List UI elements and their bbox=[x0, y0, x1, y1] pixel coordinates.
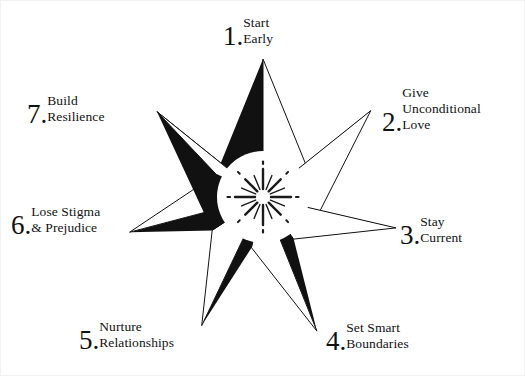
callout-6-text: Lose Stigma & Prejudice bbox=[31, 204, 100, 236]
callout-4[interactable]: 4. Set Smart Boundaries bbox=[326, 320, 409, 352]
callout-1-text: Start Early bbox=[243, 15, 273, 47]
callout-4-text: Set Smart Boundaries bbox=[346, 320, 409, 352]
callout-7-text: Build Resilience bbox=[47, 93, 104, 125]
callout-2-number: 2. bbox=[382, 109, 402, 136]
callout-2[interactable]: 2. Give Unconditional Love bbox=[382, 85, 481, 133]
callout-1-number: 1. bbox=[223, 23, 243, 50]
callout-3-text: Stay Current bbox=[420, 214, 462, 246]
callout-6[interactable]: 6. Lose Stigma & Prejudice bbox=[11, 204, 100, 236]
star-rays bbox=[130, 59, 396, 331]
callout-5[interactable]: 5. Nurture Relationships bbox=[79, 319, 174, 351]
callout-5-number: 5. bbox=[79, 327, 99, 354]
callout-6-number: 6. bbox=[11, 212, 31, 239]
callout-3[interactable]: 3. Stay Current bbox=[400, 214, 462, 246]
callout-7-number: 7. bbox=[27, 101, 47, 128]
callout-2-text: Give Unconditional Love bbox=[402, 85, 481, 133]
callout-1[interactable]: 1. Start Early bbox=[223, 15, 273, 47]
callout-5-text: Nurture Relationships bbox=[99, 319, 174, 351]
callout-4-number: 4. bbox=[326, 328, 346, 355]
callout-7[interactable]: 7. Build Resilience bbox=[27, 93, 104, 125]
callout-3-number: 3. bbox=[400, 222, 420, 249]
diagram-canvas: 1. Start Early 2. Give Unconditional Lov… bbox=[0, 0, 525, 376]
